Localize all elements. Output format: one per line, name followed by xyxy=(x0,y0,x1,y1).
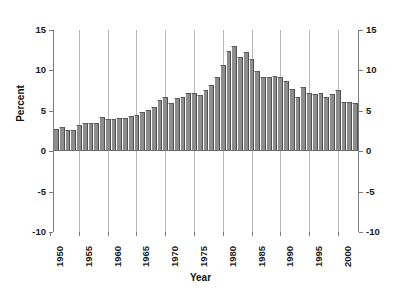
x-tick-label: 1990 xyxy=(284,246,295,267)
y-tick-left xyxy=(49,111,53,112)
y-tick-label-right: 5 xyxy=(366,106,390,116)
y-axis-left xyxy=(53,30,54,232)
y-tick-label-right: -10 xyxy=(366,227,390,237)
zero-baseline xyxy=(53,150,359,151)
x-tick xyxy=(309,232,310,236)
y-tick-label-left: -5 xyxy=(22,187,46,197)
x-tick-label: 1995 xyxy=(313,246,324,267)
y-tick-right xyxy=(359,30,363,31)
y-tick-label-left: 5 xyxy=(22,106,46,116)
x-tick-label: 2000 xyxy=(342,246,353,267)
x-tick-label: 1980 xyxy=(227,246,238,267)
y-tick-right xyxy=(359,192,363,193)
x-tick xyxy=(223,232,224,236)
x-tick xyxy=(338,232,339,236)
bar-chart: 151050-5-10 151050-5-10 1950195519601965… xyxy=(0,0,401,290)
bar-series xyxy=(53,30,358,150)
x-tick-label: 1960 xyxy=(112,246,123,267)
y-tick-left xyxy=(49,192,53,193)
y-tick-right xyxy=(359,232,363,233)
x-tick-label: 1985 xyxy=(256,246,267,267)
y-tick-right xyxy=(359,70,363,71)
x-tick xyxy=(50,232,51,236)
x-tick xyxy=(194,232,195,236)
y-tick-label-left: 10 xyxy=(22,65,46,75)
x-tick-label: 1975 xyxy=(198,246,209,267)
y-axis-title: Percent xyxy=(15,74,26,134)
y-tick-label-left: -10 xyxy=(22,227,46,237)
x-tick xyxy=(136,232,137,236)
y-tick-left xyxy=(49,151,53,152)
y-tick-label-left: 15 xyxy=(22,25,46,35)
plot-area xyxy=(53,30,358,232)
x-tick-label: 1950 xyxy=(54,246,65,267)
x-axis-title: Year xyxy=(0,272,401,283)
y-tick-right xyxy=(359,111,363,112)
y-tick-label-right: 10 xyxy=(366,65,390,75)
x-tick xyxy=(165,232,166,236)
x-tick xyxy=(108,232,109,236)
y-tick-label-right: 0 xyxy=(366,146,390,156)
x-tick xyxy=(252,232,253,236)
y-tick-right xyxy=(359,151,363,152)
y-tick-label-right: 15 xyxy=(366,25,390,35)
y-tick-left xyxy=(49,70,53,71)
x-tick xyxy=(79,232,80,236)
x-tick-label: 1955 xyxy=(83,246,94,267)
y-tick-label-right: -5 xyxy=(366,187,390,197)
x-tick-label: 1970 xyxy=(169,246,180,267)
y-tick-label-left: 0 xyxy=(22,146,46,156)
bar xyxy=(352,103,358,150)
y-axis-right xyxy=(358,30,359,232)
y-tick-left xyxy=(49,30,53,31)
x-tick-label: 1965 xyxy=(140,246,151,267)
x-tick xyxy=(280,232,281,236)
